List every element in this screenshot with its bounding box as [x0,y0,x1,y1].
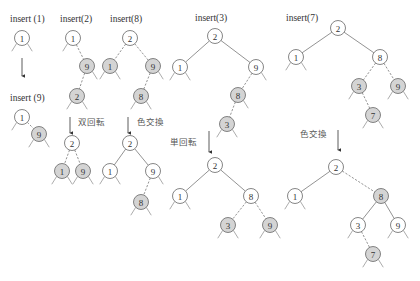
nil-leaf-stub [363,259,368,267]
red-node: 9 [391,79,406,94]
black-node: 1 [66,31,81,46]
nil-leaf-stub [403,91,408,99]
node-key: 2 [334,163,339,173]
node-key: 1 [178,63,183,73]
node-key: 3 [357,82,362,92]
tree-edge [65,150,70,164]
nil-leaf-stub [146,207,151,215]
node-key: 9 [151,167,156,177]
node-key: 2 [213,161,218,171]
nil-leaf-stub [100,71,105,79]
black-node: 2 [331,21,346,36]
nil-leaf-stub [88,176,93,184]
node-key: 8 [249,192,254,202]
node-key: 9 [396,221,401,231]
red-node: 7 [366,247,381,262]
nil-leaf-stub [170,201,175,209]
nil-leaf-stub [233,230,238,238]
red-node: 8 [134,195,149,210]
black-node: 1 [173,189,188,204]
red-node: 1 [55,164,70,179]
nil-leaf-stub [67,101,72,109]
nil-leaf-stub [100,176,105,184]
tree-edge [342,171,374,192]
node-key: 2 [128,34,133,44]
nodes-layer: 119192219219821982198321839218397218397 [15,21,406,262]
nil-leaf-stub [12,43,17,51]
red-black-tree-diagram: 119192219219821982198321839218397218397 … [0,0,420,281]
node-key: 9 [81,167,86,177]
red-node: 2 [70,89,85,104]
nil-leaf-stub [388,91,393,99]
red-node: 3 [352,79,367,94]
nil-leaf-stub [378,120,383,128]
nil-leaf-stub [82,101,87,109]
nil-leaf-stub [286,62,291,70]
nil-leaf-stub [349,91,354,99]
nil-leaf-stub [158,71,163,79]
node-key: 3 [356,221,361,231]
node-key: 1 [178,192,183,202]
node-key: 9 [254,63,259,73]
black-node: 1 [289,50,304,65]
black-node: 2 [123,31,138,46]
node-key: 2 [213,32,218,42]
red-node: 9 [76,164,91,179]
node-key: 8 [378,53,383,63]
nil-leaf-stub [131,101,136,109]
insert-step-label: insert(3) [195,13,227,24]
node-key: 9 [85,62,90,72]
transition-label: 単回転 [170,137,197,147]
black-node: 2 [208,158,223,173]
nil-leaf-stub [348,230,353,238]
node-key: 3 [225,120,230,130]
black-node: 2 [329,160,344,175]
tree-edge [361,232,369,248]
node-key: 1 [293,192,298,202]
insert-step-label: insert(8) [110,14,142,25]
red-node: 3 [220,117,235,132]
tree-edge [114,44,125,60]
nil-leaf-stub [378,259,383,267]
tree-edge [114,149,125,165]
tree-edge [144,178,151,195]
nil-leaf-stub [300,201,305,209]
nil-leaf-stub [12,122,17,130]
nil-leaf-stub [261,72,266,80]
node-key: 2 [70,139,75,149]
nil-leaf-stub [44,139,49,147]
node-key: 7 [371,111,376,121]
labels-layer: insert (1)insert (9)insert(2)双回転insert(8… [10,13,327,147]
black-node: 8 [244,189,259,204]
red-node: 8 [374,189,389,204]
red-node: 9 [263,218,278,233]
node-key: 8 [139,92,144,102]
nil-leaf-stub [185,201,190,209]
node-key: 9 [268,221,273,231]
node-key: 3 [226,221,231,231]
nil-leaf-stub [217,129,222,137]
node-key: 9 [151,62,156,72]
tree-edge [221,170,246,191]
red-node: 7 [366,108,381,123]
nil-leaf-stub [218,230,223,238]
tree-edge [302,32,332,52]
nil-leaf-stub [260,230,265,238]
black-node: 9 [146,164,161,179]
nil-leaf-stub [115,71,120,79]
tree-edge [255,202,266,218]
node-key: 1 [108,62,113,72]
nil-leaf-stub [158,176,163,184]
insert-step-label: insert(7) [286,13,318,24]
node-key: 1 [20,113,25,123]
node-key: 1 [71,34,76,44]
node-key: 1 [108,167,113,177]
tree-edge [135,44,148,60]
tree-edge [233,202,247,219]
nil-leaf-stub [73,176,78,184]
transition-label: 色交換 [137,117,164,127]
nil-leaf-stub [185,72,190,80]
node-key: 1 [294,53,299,63]
tree-edge [362,93,369,108]
black-node: 2 [123,136,138,151]
